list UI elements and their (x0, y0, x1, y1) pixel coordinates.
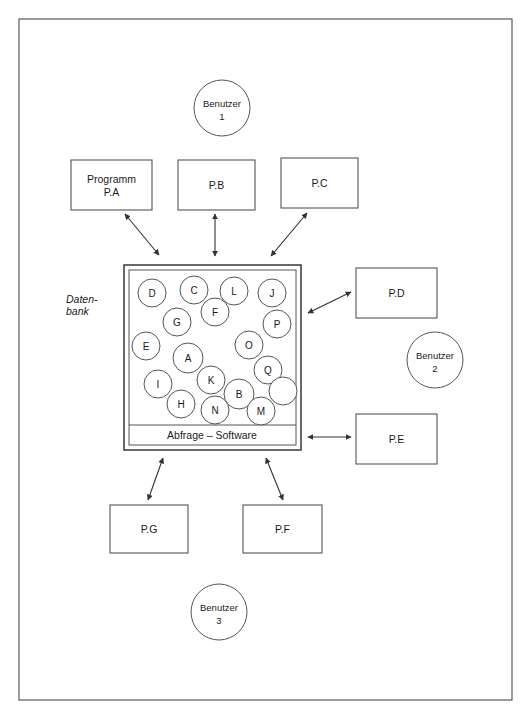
program-label-pc: P.C (311, 177, 328, 189)
user-benutzer-1: Benutzer1 (194, 80, 250, 136)
data-node-label-d: D (148, 288, 155, 299)
database-layer: DCLJGFPEOAQIKBHNMAbfrage – SoftwareDaten… (66, 265, 301, 450)
data-node-label-b: B (236, 389, 243, 400)
data-node-j: J (258, 279, 286, 307)
data-node-label-i: I (157, 379, 160, 390)
data-node-m: M (247, 397, 275, 425)
program-box-rect-pa[interactable] (71, 160, 152, 210)
data-node-unlabeled-14 (269, 377, 297, 405)
user-benutzer-2: Benutzer2 (407, 332, 463, 388)
connector-db-to-pf (266, 458, 283, 500)
data-node-d: D (138, 279, 166, 307)
data-node-k: K (197, 366, 225, 394)
data-node-label-c: C (190, 285, 197, 296)
user-label-benutzer-1-line1: Benutzer (203, 98, 241, 109)
user-label-benutzer-1-line2: 1 (219, 111, 224, 122)
data-node-label-n: N (211, 405, 218, 416)
data-node-a: A (173, 343, 203, 373)
datenbank-label-line2: bank (66, 305, 90, 317)
program-label-pd: P.D (388, 287, 405, 299)
data-node-o: O (235, 331, 263, 359)
program-box-pf[interactable]: P.F (243, 505, 322, 553)
data-node-label-q: Q (264, 365, 272, 376)
user-label-benutzer-3-line2: 3 (216, 615, 221, 626)
data-node-e: E (132, 332, 160, 360)
data-node-label-g: G (173, 317, 181, 328)
data-node-label-e: E (143, 341, 150, 352)
user-benutzer-3: Benutzer3 (191, 584, 247, 640)
data-node-label-l: L (231, 286, 237, 297)
program-label-pe: P.E (389, 433, 405, 445)
diagram-root: ProgrammP.AP.BP.CP.DP.EP.GP.F DCLJGFPEOA… (0, 0, 529, 716)
data-node-label-k: K (208, 375, 215, 386)
program-label-pa-line1: Programm (87, 173, 136, 185)
program-label-pg: P.G (141, 523, 158, 535)
data-node-label-a: A (185, 353, 192, 364)
data-node-h: H (167, 390, 195, 418)
program-box-pg[interactable]: P.G (110, 505, 188, 553)
data-node-f: F (201, 298, 229, 326)
data-node-i: I (144, 370, 172, 398)
data-node-label-h: H (177, 399, 184, 410)
data-node-label-j: J (270, 288, 275, 299)
program-label-pf: P.F (275, 523, 290, 535)
program-box-pb[interactable]: P.B (178, 160, 255, 210)
program-label-pa-line2: P.A (104, 186, 120, 198)
user-label-benutzer-2-line1: Benutzer (416, 350, 454, 361)
program-label-pb: P.B (209, 179, 225, 191)
program-box-pe[interactable]: P.E (356, 414, 437, 464)
user-label-benutzer-3-line1: Benutzer (200, 602, 238, 613)
connector-db-to-pd (308, 292, 351, 313)
data-node-label-m: M (257, 406, 265, 417)
diagram-canvas: ProgrammP.AP.BP.CP.DP.EP.GP.F DCLJGFPEOA… (0, 0, 529, 716)
abfrage-software-label: Abfrage – Software (167, 429, 257, 441)
user-label-benutzer-2-line2: 2 (432, 363, 437, 374)
data-node-c: C (180, 276, 208, 304)
connector-db-to-pc (271, 213, 307, 256)
program-box-pc[interactable]: P.C (281, 158, 358, 208)
data-node-label-p: P (274, 319, 281, 330)
connector-db-to-pa (125, 214, 159, 255)
connector-db-to-pg (148, 458, 163, 500)
program-box-pd[interactable]: P.D (356, 268, 437, 318)
data-node-label-f: F (212, 307, 218, 318)
data-node-label-o: O (245, 340, 253, 351)
program-box-pa[interactable]: ProgrammP.A (71, 160, 152, 210)
data-node-n: N (201, 396, 229, 424)
data-node-g: G (163, 308, 191, 336)
data-node-circle-unlabeled-14 (269, 377, 297, 405)
data-node-p: P (263, 310, 291, 338)
datenbank-label-line1: Daten- (66, 293, 98, 305)
